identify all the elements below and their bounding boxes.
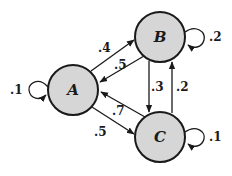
node-c: C xyxy=(135,112,185,162)
node-b: B xyxy=(135,12,185,62)
edge-c-self-loop xyxy=(185,129,204,147)
label-a-to-b: .4 xyxy=(98,41,111,55)
edge-b-self-loop xyxy=(185,29,204,48)
edge-a-self-loop xyxy=(29,82,48,99)
label-c-to-b: .2 xyxy=(176,80,189,94)
node-a-label: A xyxy=(65,81,79,99)
label-c-self: .1 xyxy=(209,130,222,144)
label-b-to-c: .3 xyxy=(151,80,164,94)
label-a-self: .1 xyxy=(10,83,23,97)
node-b-label: B xyxy=(153,28,167,46)
label-b-to-a: .5 xyxy=(114,58,127,72)
label-a-to-c: .5 xyxy=(94,125,107,139)
edge-labels: .1 .4 .5 .5 .7 .3 .2 .2 .1 xyxy=(10,30,222,144)
node-c-label: C xyxy=(154,128,166,146)
markov-chain-diagram: A B C .1 .4 .5 .5 .7 .3 .2 .2 .1 xyxy=(0,0,232,176)
label-b-self: .2 xyxy=(209,30,222,44)
node-a: A xyxy=(48,65,98,115)
label-c-to-a: .7 xyxy=(112,104,125,118)
